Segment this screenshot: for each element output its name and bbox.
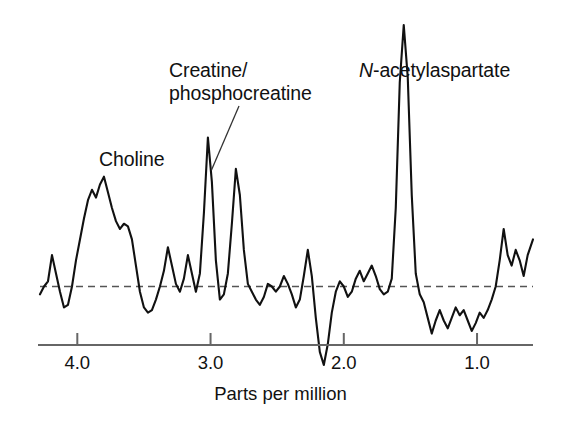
peak-label-creatine-line1: Creatine/ (169, 59, 247, 81)
axis-group (38, 333, 533, 345)
x-axis-tick-label-4.0: 4.0 (47, 352, 107, 374)
peak-label-creatine: Creatine/phosphocreatine (169, 59, 312, 105)
peak-label-naa-remainder: -acetylaspartate (373, 59, 510, 81)
spectrum-figure: Choline Creatine/phosphocreatine N-acety… (0, 0, 561, 429)
peak-label-n-acetylaspartate: N-acetylaspartate (359, 59, 510, 82)
peak-label-choline: Choline (99, 148, 164, 171)
x-axis-tick-label-1.0: 1.0 (447, 352, 507, 374)
x-axis-title: Parts per million (0, 383, 561, 405)
peak-label-choline-text: Choline (99, 148, 164, 170)
x-axis-ticks (77, 333, 477, 345)
creatine-leader-line (212, 106, 240, 170)
x-axis-tick-label-2.0: 2.0 (314, 352, 374, 374)
peak-label-creatine-line2: phosphocreatine (169, 82, 312, 104)
leader-line-group (212, 106, 240, 170)
peak-label-naa-italic-n: N (359, 59, 373, 81)
x-axis-tick-label-3.0: 3.0 (181, 352, 241, 374)
